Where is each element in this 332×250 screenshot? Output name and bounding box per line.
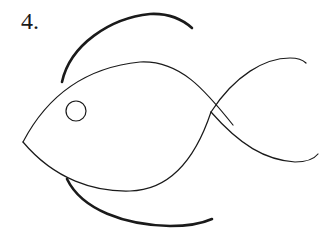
fish-top-fin [62, 14, 192, 82]
fish-body-bottom-outline [23, 112, 211, 191]
fish-eye-icon [66, 101, 86, 121]
fish-drawing [0, 0, 332, 250]
fish-body-top-outline [23, 62, 233, 142]
fish-tail-upper-lobe [211, 58, 306, 112]
fish-tail-lower-lobe [211, 112, 318, 162]
